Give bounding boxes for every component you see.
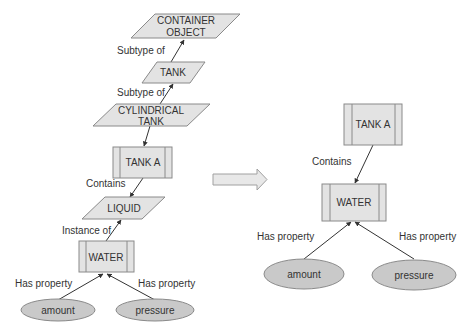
right-arrow-icon — [213, 169, 267, 190]
node-label: LIQUID — [107, 203, 140, 214]
edge-label-has-property: Has property — [257, 231, 314, 242]
node-pressure[interactable]: pressure — [372, 260, 456, 290]
node-pressure[interactable]: pressure — [116, 299, 194, 321]
edge-label-has-property: Has property — [15, 278, 72, 289]
node-tank-a[interactable]: TANK A — [113, 147, 172, 178]
node-tank[interactable]: TANK — [142, 62, 205, 83]
node-label: TANK A — [356, 119, 391, 130]
node-container-object[interactable]: CONTAINER OBJECT — [131, 14, 240, 38]
node-liquid[interactable]: LIQUID — [82, 197, 165, 219]
node-label: pressure — [395, 270, 434, 281]
node-label: TANK A — [126, 157, 161, 168]
node-label: CYLINDRICAL — [118, 105, 185, 116]
node-label: CONTAINER — [157, 15, 215, 26]
node-amount[interactable]: amount — [264, 259, 344, 289]
right-diagram: TANK A Contains WATER Has property Has p… — [257, 104, 456, 290]
edge-tanka-to-liquid — [130, 178, 143, 197]
edge-label-has-property: Has property — [138, 278, 195, 289]
edge-label-subtype-of-1: Subtype of — [117, 45, 165, 56]
node-tank-a[interactable]: TANK A — [344, 104, 402, 145]
node-water[interactable]: WATER — [79, 241, 134, 272]
node-label: TANK — [138, 116, 164, 127]
node-water[interactable]: WATER — [322, 184, 386, 221]
node-label: amount — [287, 269, 321, 280]
left-diagram: CONTAINER OBJECT Subtype of TANK Subtype… — [15, 14, 240, 321]
node-label: OBJECT — [166, 27, 205, 38]
node-amount[interactable]: amount — [21, 299, 95, 321]
edge-label-instance-of: Instance of — [62, 225, 111, 236]
edge-label-has-property: Has property — [399, 231, 456, 242]
edge-tanka-to-water — [355, 145, 373, 183]
node-label: WATER — [89, 252, 124, 263]
edge-label-contains: Contains — [312, 156, 351, 167]
node-cylindrical-tank[interactable]: CYLINDRICAL TANK — [93, 104, 210, 127]
edge-label-contains: Contains — [86, 178, 125, 189]
node-label: WATER — [337, 197, 372, 208]
node-label: pressure — [136, 305, 175, 316]
diagram-canvas: CONTAINER OBJECT Subtype of TANK Subtype… — [0, 0, 471, 335]
edge-tank-to-container — [171, 40, 184, 62]
edge-label-subtype-of-2: Subtype of — [117, 87, 165, 98]
node-label: TANK — [160, 67, 186, 78]
edge-cyl-tanka — [144, 126, 150, 146]
node-label: amount — [41, 305, 75, 316]
